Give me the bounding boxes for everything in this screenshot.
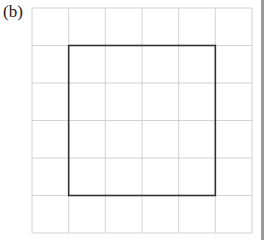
grid-diagram	[0, 0, 271, 240]
page-edge-bar	[261, 0, 264, 240]
grid-lines	[32, 8, 252, 233]
